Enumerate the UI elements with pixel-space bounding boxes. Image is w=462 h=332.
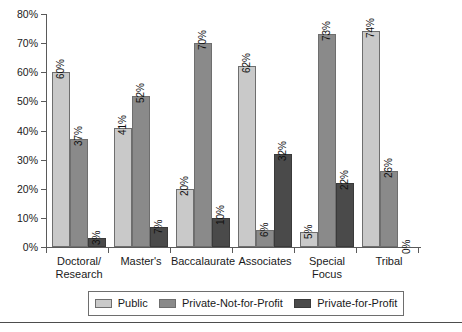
bar-value-label: 41%: [118, 115, 128, 135]
bar-value-label: 52%: [136, 83, 146, 103]
bar-value-label: 7%: [154, 219, 164, 233]
legend-label: Private-for-Profit: [317, 298, 397, 309]
legend-label: Public: [118, 298, 148, 309]
dark-gray-swatch: [294, 299, 311, 308]
bar: [52, 72, 70, 247]
light-gray-swatch: [95, 299, 112, 308]
bar-value-label: 70%: [198, 30, 208, 50]
legend-item: Private-Not-for-Profit: [159, 298, 283, 309]
y-axis-tick-label: 60%: [0, 67, 38, 78]
bar-value-label: 26%: [384, 158, 394, 178]
y-axis-tick-label: 0%: [0, 242, 38, 253]
bar: [336, 183, 354, 247]
bar-value-label: 22%: [340, 170, 350, 190]
bar-value-label: 62%: [242, 53, 252, 73]
x-axis-tick: [294, 248, 295, 253]
bar: [132, 96, 150, 247]
bar-value-label: 20%: [180, 176, 190, 196]
y-axis-tick-label: 80%: [0, 9, 38, 20]
x-axis-tick: [108, 248, 109, 253]
x-axis-category-label: Tribal: [349, 255, 429, 268]
bar-value-label: 60%: [56, 59, 66, 79]
legend-item: Private-for-Profit: [294, 298, 397, 309]
y-axis-tick-label: 30%: [0, 155, 38, 166]
x-axis-tick: [356, 248, 357, 253]
bar: [176, 189, 194, 247]
bar-value-label: 10%: [216, 205, 226, 225]
y-axis-tick-label: 10%: [0, 213, 38, 224]
bar-value-label: 3%: [92, 231, 102, 245]
bar-value-label: 73%: [322, 21, 332, 41]
chart-legend: PublicPrivate-Not-for-ProfitPrivate-for-…: [88, 291, 404, 316]
medium-gray-swatch: [159, 299, 176, 308]
bar-value-label: 32%: [278, 141, 288, 161]
bar-value-label: 37%: [74, 126, 84, 146]
bar: [380, 171, 398, 247]
bar: [318, 34, 336, 247]
y-axis-tick-label: 40%: [0, 126, 38, 137]
bar: [238, 66, 256, 247]
x-axis-tick: [46, 248, 47, 253]
bar-value-label: 5%: [304, 225, 314, 239]
legend-label: Private-Not-for-Profit: [182, 298, 283, 309]
y-axis-tick-label: 50%: [0, 96, 38, 107]
x-axis-line: [46, 247, 421, 248]
bar: [274, 154, 292, 247]
x-axis-tick: [418, 248, 419, 253]
y-axis-tick-label: 20%: [0, 184, 38, 195]
x-axis-tick: [232, 248, 233, 253]
bar: [114, 128, 132, 247]
legend-item: Public: [95, 298, 148, 309]
bottom-divider-rule: [0, 322, 462, 323]
bar-value-label: 6%: [260, 222, 270, 236]
bar: [70, 139, 88, 247]
y-axis-tick-label: 70%: [0, 38, 38, 49]
bar-value-label: 74%: [366, 18, 376, 38]
bar: [362, 31, 380, 247]
bar: [194, 43, 212, 247]
bar-chart-figure: 0%10%20%30%40%50%60%70%80% 60%37%3%41%52…: [0, 0, 462, 332]
plot-area: 60%37%3%41%52%7%20%70%10%62%6%32%5%73%22…: [46, 14, 420, 247]
x-axis-tick: [170, 248, 171, 253]
bar-value-label: 0%: [402, 240, 412, 254]
